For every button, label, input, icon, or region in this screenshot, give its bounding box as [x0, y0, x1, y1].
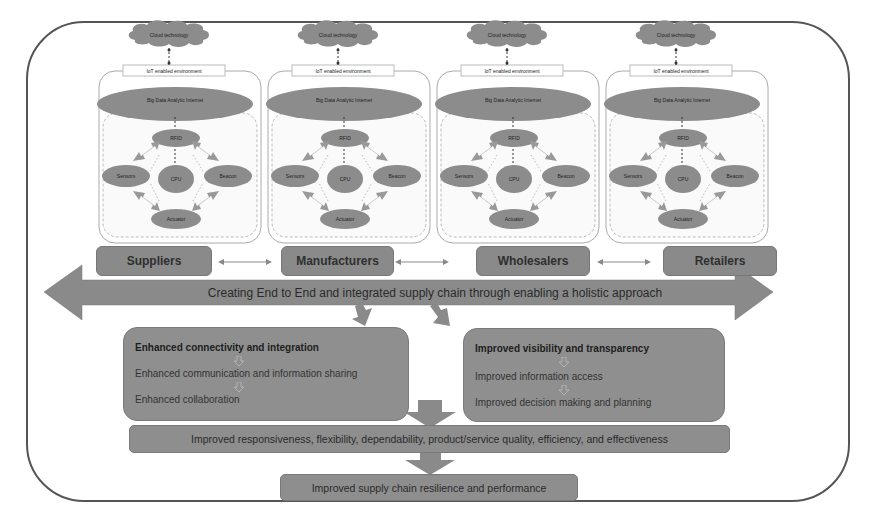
holistic-approach-banner: Creating End to End and integrated suppl… — [90, 283, 780, 303]
iot-environment-label: IoT enabled environment — [630, 68, 732, 74]
panel-line: Improved information access — [475, 371, 603, 382]
node-beacon: Beacon — [205, 173, 251, 179]
cloud-technology-label: Cloud technology — [471, 32, 543, 38]
module-graphics — [93, 13, 265, 245]
panel-title: Improved visibility and transparency — [475, 343, 649, 354]
node-cpu: CPU — [496, 176, 532, 182]
node-rfid: RFID — [153, 135, 199, 141]
final-outcome-bar: Improved supply chain resilience and per… — [280, 474, 578, 501]
iot-environment-label: IoT enabled environment — [461, 68, 563, 74]
iot-module-retailers: Cloud technology IoT enabled environment… — [600, 13, 772, 245]
node-sensors: Sensors — [103, 173, 149, 179]
cloud-technology-label: Cloud technology — [302, 32, 374, 38]
cloud-technology-label: Cloud technology — [640, 32, 712, 38]
node-actuator: Actuator — [660, 216, 706, 222]
big-data-label: Big Data Analytic Internet — [314, 97, 374, 103]
node-rfid: RFID — [660, 135, 706, 141]
iot-module-suppliers: Cloud technology IoT enabled environment… — [93, 13, 265, 245]
arrow-down-icon — [559, 357, 569, 367]
outcome-bar: Improved responsiveness, flexibility, de… — [129, 425, 730, 453]
node-sensors: Sensors — [272, 173, 318, 179]
big-data-label: Big Data Analytic Internet — [652, 97, 712, 103]
node-cpu: CPU — [665, 176, 701, 182]
node-actuator: Actuator — [322, 216, 368, 222]
node-sensors: Sensors — [610, 173, 656, 179]
panel-line: Improved decision making and planning — [475, 397, 651, 408]
node-beacon: Beacon — [543, 173, 589, 179]
cloud-technology-label: Cloud technology — [133, 32, 205, 38]
arrow-down-icon — [234, 356, 244, 366]
big-data-label: Big Data Analytic Internet — [483, 97, 543, 103]
panel-connectivity-integration: Enhanced connectivity and integration En… — [123, 327, 409, 421]
panel-line: Enhanced collaboration — [135, 394, 240, 405]
iot-environment-label: IoT enabled environment — [123, 68, 225, 74]
node-rfid: RFID — [491, 135, 537, 141]
stage-suppliers: Suppliers — [96, 246, 212, 276]
arrow-down-icon — [559, 385, 569, 395]
stage-manufacturers: Manufacturers — [281, 246, 394, 276]
node-rfid: RFID — [322, 135, 368, 141]
module-graphics — [600, 13, 772, 245]
panel-title: Enhanced connectivity and integration — [135, 342, 319, 353]
module-graphics — [431, 13, 603, 245]
panel-visibility-transparency: Improved visibility and transparency Imp… — [463, 328, 725, 422]
node-beacon: Beacon — [374, 173, 420, 179]
module-graphics — [262, 13, 434, 245]
node-cpu: CPU — [158, 176, 194, 182]
panel-line: Enhanced communication and information s… — [135, 368, 357, 379]
iot-module-manufacturers: Cloud technology IoT enabled environment… — [262, 13, 434, 245]
node-actuator: Actuator — [491, 216, 537, 222]
node-beacon: Beacon — [712, 173, 758, 179]
node-actuator: Actuator — [153, 216, 199, 222]
stage-wholesalers: Wholesalers — [476, 246, 590, 276]
arrow-down-icon — [234, 382, 244, 392]
node-cpu: CPU — [327, 176, 363, 182]
iot-environment-label: IoT enabled environment — [292, 68, 394, 74]
big-data-label: Big Data Analytic Internet — [145, 97, 205, 103]
stage-retailers: Retailers — [663, 246, 777, 276]
node-sensors: Sensors — [441, 173, 487, 179]
iot-module-wholesalers: Cloud technology IoT enabled environment… — [431, 13, 603, 245]
